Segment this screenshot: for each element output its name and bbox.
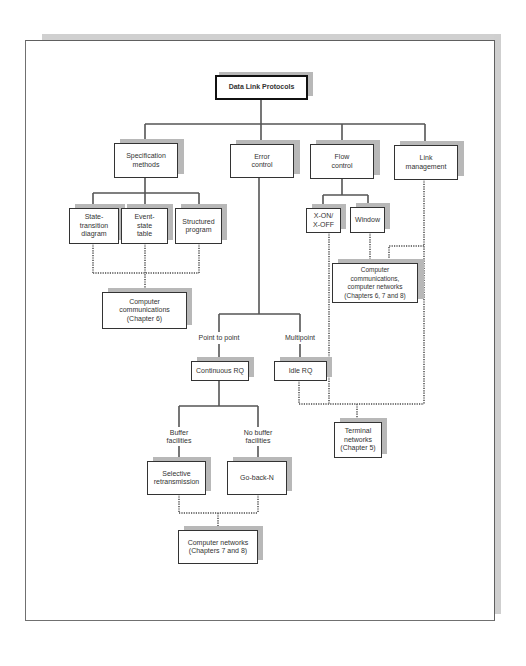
node-go-back-n: Go-back-N bbox=[227, 461, 287, 495]
node-xon-xoff: X-ON/ X-OFF bbox=[306, 208, 341, 233]
node-data-link-protocols: Data Link Protocols bbox=[215, 75, 308, 100]
node-idle-rq: Idle RQ bbox=[274, 361, 327, 381]
edge-continuous-children bbox=[179, 380, 258, 461]
edge-spec-to-cc6 bbox=[93, 243, 199, 292]
node-error-control: Error control bbox=[230, 144, 294, 178]
node-computer-networks-ch78: Computer networks (Chapters 7 and 8) bbox=[178, 530, 258, 564]
node-window: Window bbox=[350, 207, 385, 233]
node-flow-control: Flow control bbox=[310, 144, 374, 179]
node-state-transition-diagram: State- transition diagram bbox=[69, 208, 119, 244]
node-link-management: Link management bbox=[394, 145, 458, 180]
node-continuous-rq: Continuous RQ bbox=[191, 361, 249, 381]
label-point-to-point: Point to point bbox=[199, 334, 240, 342]
node-event-state-table: Event- state table bbox=[121, 208, 168, 244]
node-terminal-networks: Terminal networks (Chapter 5) bbox=[334, 422, 382, 458]
edge-buffer-to-cn78 bbox=[179, 494, 258, 530]
label-buffer-facilities: Buffer facilities bbox=[167, 429, 192, 445]
node-selective-retransmission: Selective retransmission bbox=[147, 461, 206, 495]
node-computer-communications-ch6: Computer communications (Chapter 6) bbox=[102, 292, 187, 329]
node-specification-methods: Specification methods bbox=[114, 143, 178, 178]
edge-idle-to-terminal bbox=[299, 380, 424, 422]
node-computer-communications-networks: Computer communications, computer networ… bbox=[332, 263, 418, 303]
edge-root-bus bbox=[145, 99, 425, 145]
label-multipoint: Multipoint bbox=[285, 334, 315, 342]
label-no-buffer-facilities: No buffer facilities bbox=[244, 429, 273, 445]
node-structured-program: Structured program bbox=[175, 208, 222, 244]
